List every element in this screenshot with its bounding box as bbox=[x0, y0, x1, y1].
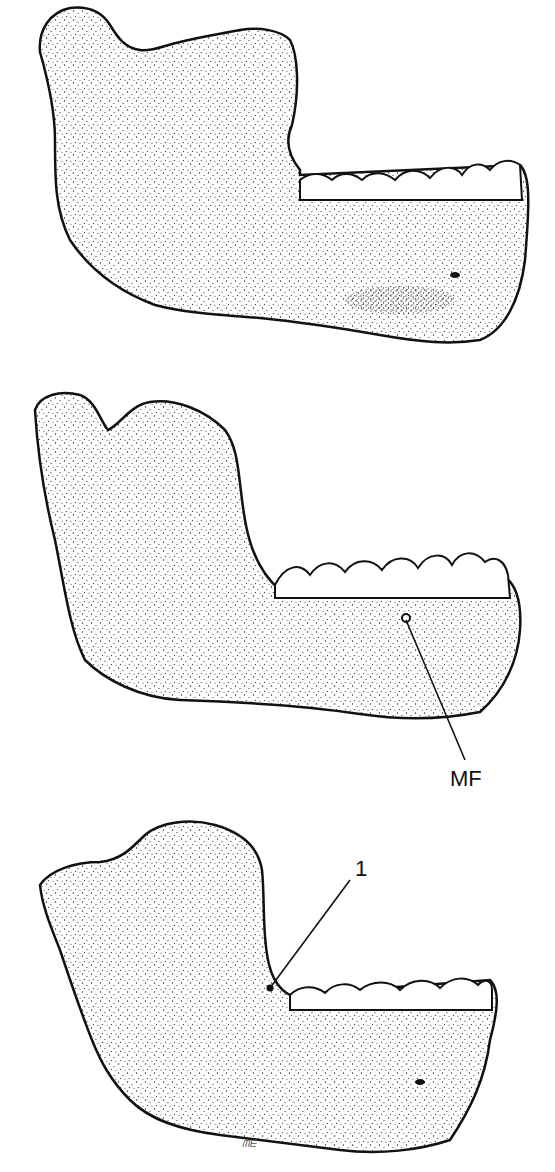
mandible-bottom bbox=[40, 822, 497, 1152]
artist-signature: ᗰᗴ bbox=[242, 1138, 256, 1150]
mandible-top bbox=[40, 8, 529, 343]
mandible-middle-outline bbox=[35, 393, 520, 718]
tooth-row-bottom bbox=[290, 979, 492, 1010]
figure-canvas bbox=[0, 0, 555, 1172]
foramen-top bbox=[450, 272, 460, 278]
label-mf: MF bbox=[450, 766, 482, 792]
label-1-leader-line bbox=[270, 880, 350, 988]
label-1: 1 bbox=[355, 856, 367, 882]
foramen-bottom bbox=[415, 1079, 425, 1085]
mandible-middle bbox=[35, 393, 520, 760]
tooth-row-middle bbox=[275, 553, 510, 598]
stipple-shadow-top bbox=[345, 286, 455, 314]
